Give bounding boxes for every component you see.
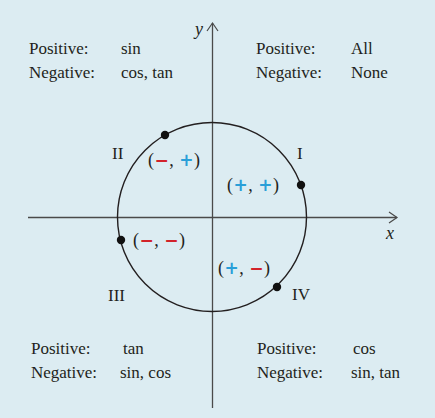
point-quadrant-I [297,181,305,189]
quadrant-I-label: I [297,145,303,162]
quadrant-II-info: Positive:sin Negative:cos, tan [29,37,199,85]
comma: , [248,175,258,195]
positive-functions: sin [121,37,141,61]
positive-key: Positive: [29,37,89,61]
sign-x: + [225,258,240,278]
sign-x: − [140,230,155,250]
point-quadrant-III [117,236,125,244]
quadrant-II-signs: (−, +) [148,151,201,169]
comma: , [169,150,179,170]
quadrant-IV-label: IV [292,286,310,303]
sign-x: + [234,175,249,195]
negative-functions: sin, cos [120,361,171,385]
point-quadrant-IV [273,283,281,291]
negative-key: Negative: [29,61,95,85]
positive-key: Positive: [31,337,91,361]
quadrant-IV-signs: (+, −) [218,259,271,277]
close-paren: ) [194,150,201,170]
x-axis-label: x [386,224,394,242]
y-axis-label: y [195,20,203,38]
negative-functions: None [351,61,388,85]
close-paren: ) [273,175,280,195]
sign-y: + [179,150,194,170]
quadrant-IV-info: Positive:cos Negative:sin, tan [257,337,427,385]
positive-functions: tan [123,337,144,361]
quadrant-I-signs: (+, +) [227,176,280,194]
sign-y: − [164,230,179,250]
point-quadrant-II [161,131,169,139]
sign-y: − [249,258,264,278]
negative-functions: sin, tan [351,361,400,385]
quadrant-III-info: Positive:tan Negative:sin, cos [31,337,201,385]
positive-key: Positive: [257,337,317,361]
comma: , [154,230,164,250]
close-paren: ) [264,258,271,278]
comma: , [239,258,249,278]
negative-key: Negative: [257,361,323,385]
sign-y: + [258,175,273,195]
positive-key: Positive: [256,37,316,61]
negative-key: Negative: [256,61,322,85]
quadrant-II-label: II [112,145,123,162]
close-paren: ) [179,230,186,250]
positive-functions: All [351,37,373,61]
quadrant-III-label: III [108,287,125,304]
negative-functions: cos, tan [121,61,173,85]
negative-key: Negative: [31,361,97,385]
quadrant-I-info: Positive:All Negative:None [256,37,426,85]
sign-x: − [155,150,170,170]
quadrant-III-signs: (−, −) [133,231,186,249]
positive-functions: cos [353,337,376,361]
